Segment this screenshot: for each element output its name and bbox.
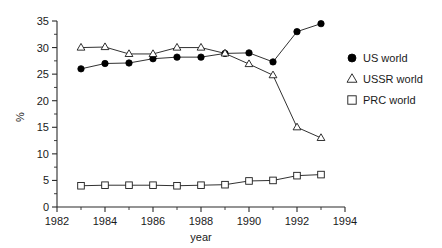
data-point-marker [198,182,205,189]
data-point-marker [174,182,181,189]
legend-label: USSR world [363,73,423,85]
data-point-marker [173,43,181,50]
y-axis-title: % [14,112,26,122]
data-point-marker [293,123,301,130]
x-tick-label: 1982 [45,215,69,227]
legend-label: US world [363,52,408,64]
legend-item-ussr-world[interactable]: USSR world [347,73,423,85]
x-tick-label: 1990 [237,215,261,227]
y-tick-label: 10 [37,148,49,160]
legend-item-us-world[interactable]: US world [348,52,408,64]
data-point-marker [126,60,132,66]
data-point-marker [197,43,205,50]
data-point-marker [102,182,109,189]
x-axis-ticks [57,207,345,212]
y-tick-label: 15 [37,121,49,133]
x-tick-label: 1992 [285,215,309,227]
data-series-layer [77,20,325,189]
data-point-marker [78,182,85,189]
legend-label: PRC world [363,94,416,106]
legend-marker-icon [348,54,356,62]
data-point-marker [101,43,109,50]
data-point-marker [174,54,180,60]
x-axis-title: year [190,231,212,243]
series-prc-world [78,171,325,189]
chart-legend: US worldUSSR worldPRC world [347,52,423,106]
data-point-marker [198,54,204,60]
legend-item-prc-world[interactable]: PRC world [348,94,416,106]
x-axis-tick-labels: 1982198419861988199019921994 [45,215,357,227]
x-tick-label: 1988 [189,215,213,227]
y-axis: 05101520253035 % [14,15,57,213]
data-point-marker [318,20,324,26]
data-point-marker [78,66,84,72]
data-point-marker [294,28,300,34]
data-point-marker [246,50,252,56]
x-axis: 1982198419861988199019921994 year [45,207,357,243]
legend-marker-icon [348,96,356,104]
data-point-marker [150,182,157,189]
x-tick-label: 1986 [141,215,165,227]
y-axis-tick-labels: 05101520253035 [37,15,49,213]
data-point-marker [246,178,253,185]
y-tick-label: 30 [37,42,49,54]
chart-canvas: 05101520253035 % 19821984198619881990199… [0,0,442,248]
data-point-marker [270,59,276,65]
data-point-marker [270,177,277,184]
x-tick-label: 1984 [93,215,117,227]
y-tick-label: 5 [43,174,49,186]
data-point-marker [77,43,85,50]
data-point-marker [102,60,108,66]
legend-marker-icon [347,74,357,83]
data-point-marker [222,181,229,188]
data-point-marker [126,182,133,189]
data-point-marker [294,172,301,179]
y-tick-label: 35 [37,15,49,27]
chart-figure: 05101520253035 % 19821984198619881990199… [0,0,442,248]
y-tick-label: 20 [37,95,49,107]
y-tick-label: 25 [37,68,49,80]
y-tick-label: 0 [43,201,49,213]
y-axis-ticks [52,21,57,207]
data-point-marker [318,171,325,178]
x-tick-label: 1994 [333,215,357,227]
